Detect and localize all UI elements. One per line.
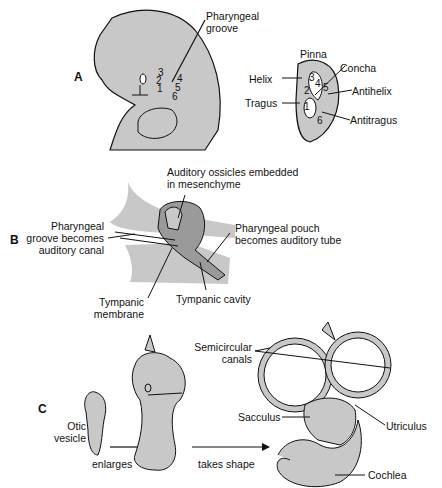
enlarged-vesicle (132, 353, 185, 471)
label-pharyngeal-groove: Pharyngeal groove (206, 10, 259, 34)
label-cochlea: Cochlea (368, 469, 407, 481)
panel-c-letter: C (38, 402, 47, 416)
label-tympanic-membrane: Tympanic membrane (80, 296, 144, 320)
hillock-1: 1 (157, 84, 163, 94)
label-auditory-ossicles: Auditory ossicles embedded in mesenchyme (167, 166, 298, 190)
otic-vesicle (85, 392, 106, 455)
ear-num-4: 4 (315, 79, 321, 89)
panel-b-letter: B (10, 233, 19, 247)
label-tragus: Tragus (245, 97, 277, 109)
label-concha: Concha (340, 62, 376, 74)
label-semicircular-canals: Semicircular canals (180, 341, 252, 365)
panel-a-letter: A (74, 70, 83, 84)
label-enlarges: enlarges (92, 458, 132, 470)
label-takes-shape: takes shape (198, 458, 255, 470)
ear-num-3: 3 (309, 73, 315, 83)
label-helix: Helix (249, 73, 272, 85)
label-pharyngeal-pouch: Pharyngeal pouch becomes auditory tube (235, 222, 341, 246)
ear-num-6: 6 (317, 116, 323, 126)
label-sacculus: Sacculus (238, 411, 281, 423)
label-antihelix: Antihelix (352, 85, 392, 97)
label-tympanic-cavity: Tympanic cavity (176, 293, 251, 305)
label-pharyngeal-groove-canal: Pharyngeal groove becomes auditory canal (20, 220, 104, 256)
label-utriculus: Utriculus (386, 420, 427, 432)
label-antitragus: Antitragus (350, 114, 397, 126)
ear-num-5: 5 (323, 83, 329, 93)
ear-num-2: 2 (304, 86, 310, 96)
hillock-6: 6 (172, 92, 178, 102)
ear-pinna (296, 60, 339, 142)
sacculus-utriculus (304, 398, 356, 445)
ear-num-1: 1 (304, 102, 310, 112)
label-pinna: Pinna (300, 48, 327, 60)
label-otic-vesicle: Otic vesicle (40, 420, 86, 444)
